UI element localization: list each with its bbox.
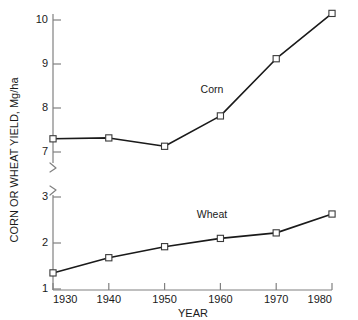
- corn-tick-label-7: 7: [42, 145, 48, 157]
- corn-tick-label-10: 10: [36, 13, 48, 25]
- data-point-marker: [217, 235, 223, 241]
- corn-tick-label-8: 8: [42, 101, 48, 113]
- data-point-marker: [273, 56, 279, 62]
- x-tick-label-1980: 1980: [308, 293, 332, 305]
- wheat-tick-label-1: 1: [42, 282, 48, 294]
- wheat-tick-label-3: 3: [42, 190, 48, 202]
- corn-tick-label-9: 9: [42, 57, 48, 69]
- x-tick-label-1950: 1950: [152, 293, 176, 305]
- data-point-marker: [162, 244, 168, 250]
- data-point-marker: [50, 270, 56, 276]
- x-axis-title: YEAR: [178, 307, 208, 319]
- data-point-marker: [50, 136, 56, 142]
- x-tick-label-1940: 1940: [97, 293, 121, 305]
- data-point-marker: [106, 255, 112, 261]
- x-tick-label-1960: 1960: [208, 293, 232, 305]
- data-point-marker: [217, 113, 223, 119]
- corn-series-label: Corn: [201, 83, 224, 95]
- data-point-marker: [162, 143, 168, 149]
- x-tick-label-1930: 1930: [53, 293, 77, 305]
- data-point-marker: [329, 211, 335, 217]
- data-point-marker: [273, 230, 279, 236]
- data-point-marker: [329, 10, 335, 16]
- yield-line-chart: CORN OR WHEAT YIELD, Mg/ha 10 9 8 7: [0, 0, 358, 320]
- x-tick-label-1970: 1970: [264, 293, 288, 305]
- wheat-series-label: Wheat: [197, 208, 227, 220]
- y-axis-title: CORN OR WHEAT YIELD, Mg/ha: [8, 77, 20, 243]
- data-point-marker: [106, 135, 112, 141]
- chart-figure: CORN OR WHEAT YIELD, Mg/ha 10 9 8 7: [0, 0, 358, 320]
- wheat-tick-label-2: 2: [42, 236, 48, 248]
